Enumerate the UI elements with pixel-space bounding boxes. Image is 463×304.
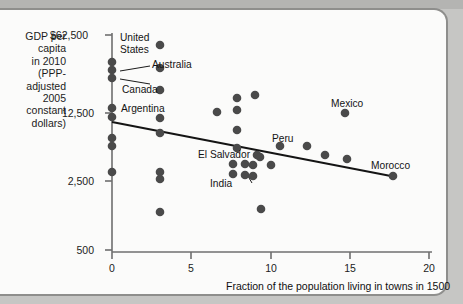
point-label-morocco: Morocco xyxy=(371,160,410,171)
x-tick-label-20: 20 xyxy=(409,262,449,274)
data-point xyxy=(241,160,250,169)
x-tick-label-0: 0 xyxy=(92,262,132,274)
data-point xyxy=(156,129,165,138)
data-point xyxy=(256,153,265,162)
x-tick-label-5: 5 xyxy=(171,262,211,274)
data-point xyxy=(303,142,312,151)
point-label-el-salvador: El Salvador xyxy=(198,149,250,160)
data-point xyxy=(241,171,250,180)
x-tick-marks xyxy=(112,252,429,259)
data-point xyxy=(156,41,165,50)
point-label-canada: Canada xyxy=(122,84,158,95)
data-point xyxy=(233,106,242,115)
point-label-united-states: United States xyxy=(120,32,149,56)
data-point xyxy=(156,175,165,184)
x-tick-label-10: 10 xyxy=(251,262,291,274)
data-point xyxy=(108,168,117,177)
data-point xyxy=(389,172,398,181)
data-point xyxy=(108,74,117,83)
data-point xyxy=(108,58,117,67)
data-point xyxy=(233,94,242,103)
point-label-australia: Australia xyxy=(152,59,192,70)
scatter-plot: GDP per capita in 2010 (PPP- adjusted 20… xyxy=(0,0,463,304)
data-point xyxy=(249,161,258,170)
data-point xyxy=(341,109,350,118)
figure-root: GDP per capita in 2010 (PPP- adjusted 20… xyxy=(0,0,463,304)
data-point xyxy=(249,172,258,181)
y-tick-label-62500: $62,500 xyxy=(28,29,88,41)
data-point xyxy=(156,114,165,123)
data-point xyxy=(213,108,222,117)
point-label-peru: Peru xyxy=(272,133,294,144)
data-point xyxy=(267,161,276,170)
data-point xyxy=(108,113,117,122)
point-label-mexico: Mexico xyxy=(331,98,363,109)
x-axis-caption: Fraction of the population living in tow… xyxy=(226,280,450,292)
data-point xyxy=(229,170,238,179)
data-point xyxy=(229,160,238,169)
data-point xyxy=(156,208,165,217)
data-point xyxy=(108,104,117,113)
point-label-argentina: Argentina xyxy=(121,103,165,114)
data-point xyxy=(343,155,352,164)
data-point xyxy=(233,126,242,135)
data-point xyxy=(108,142,117,151)
y-tick-label-12500: 12,500 xyxy=(34,107,94,119)
y-tick-label-500: 500 xyxy=(34,244,94,256)
data-point xyxy=(108,134,117,143)
y-tick-label-2500: 2,500 xyxy=(34,175,94,187)
x-tick-label-15: 15 xyxy=(330,262,370,274)
data-point xyxy=(108,66,117,75)
data-point xyxy=(257,205,266,214)
point-label-india: India xyxy=(210,178,232,189)
data-point xyxy=(251,91,260,100)
data-point xyxy=(321,151,330,160)
